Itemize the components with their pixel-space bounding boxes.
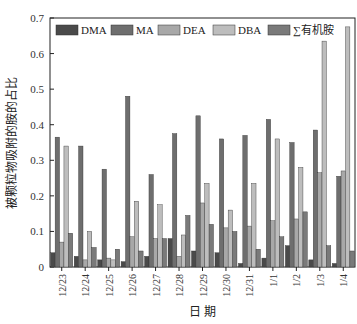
- bar-MA: [196, 116, 200, 267]
- y-tick-label: 0.3: [30, 154, 44, 166]
- x-tick-label: 12/27: [151, 274, 162, 297]
- bar-DMA: [192, 251, 196, 267]
- bar-∑有机胺: [233, 231, 237, 267]
- bar-DMA: [145, 256, 149, 267]
- bar-∑有机胺: [279, 237, 283, 267]
- bar-∑有机胺: [326, 246, 330, 267]
- bar-∑有机胺: [162, 239, 166, 267]
- bar-MA: [313, 130, 317, 267]
- bar-DMA: [121, 262, 125, 267]
- bar-MA: [337, 176, 341, 267]
- y-axis-title: 被颗粒物吸附的胺的占比: [4, 77, 19, 209]
- legend-swatch: [56, 25, 78, 35]
- bar-DEA: [60, 242, 64, 267]
- bar-DMA: [215, 253, 219, 267]
- bar-DEA: [294, 219, 298, 267]
- bar-MA: [219, 139, 223, 267]
- x-tick-label: 12/28: [174, 274, 185, 297]
- x-axis-title: 日 期: [189, 305, 216, 319]
- bar-DMA: [168, 239, 172, 267]
- bar-∑有机胺: [350, 251, 354, 267]
- bar-MA: [149, 175, 153, 267]
- bar-∑有机胺: [186, 215, 190, 267]
- y-tick-label: 0.1: [30, 225, 44, 237]
- bar-DEA: [247, 226, 251, 267]
- bar-∑有机胺: [139, 251, 143, 267]
- x-tick-label: 1/4: [338, 274, 349, 287]
- y-tick-label: 0.5: [30, 83, 44, 95]
- x-tick-label: 12/30: [221, 274, 232, 297]
- bar-DEA: [200, 203, 204, 267]
- bar-DEA: [153, 239, 157, 267]
- bar-∑有机胺: [256, 249, 260, 267]
- bar-DEA: [83, 260, 87, 267]
- bar-DBA: [252, 183, 256, 267]
- y-tick-label: 0.6: [30, 48, 44, 60]
- bar-DEA: [318, 173, 322, 267]
- bar-MA: [172, 134, 176, 267]
- bar-DEA: [271, 221, 275, 267]
- bar-DBA: [158, 205, 162, 267]
- x-tick-label: 1/3: [315, 274, 326, 287]
- bar-DMA: [74, 256, 78, 267]
- bar-∑有机胺: [115, 249, 119, 267]
- bar-DBA: [322, 41, 326, 267]
- x-tick-label: 12/24: [80, 274, 91, 297]
- bar-MA: [266, 119, 270, 267]
- bar-MA: [55, 137, 59, 267]
- y-tick-label: 0.2: [30, 190, 44, 202]
- y-tick-label: 0: [39, 261, 45, 273]
- legend-label: ∑有机胺: [293, 23, 334, 37]
- bar-MA: [79, 146, 83, 267]
- bar-DEA: [130, 237, 134, 267]
- bar-∑有机胺: [68, 233, 72, 267]
- x-tick-label: 12/29: [198, 274, 209, 297]
- bar-DEA: [341, 171, 345, 267]
- bar-DEA: [177, 256, 181, 267]
- bar-MA: [102, 169, 106, 267]
- bar-DMA: [51, 253, 55, 267]
- bar-DBA: [181, 235, 185, 267]
- bar-DBA: [64, 146, 68, 267]
- y-tick-label: 0.7: [30, 12, 44, 24]
- x-tick-label: 12/25: [104, 274, 115, 297]
- bar-∑有机胺: [209, 224, 213, 267]
- bar-DMA: [309, 260, 313, 267]
- legend-swatch: [268, 25, 290, 35]
- legend-label: MA: [136, 24, 154, 36]
- bar-DEA: [106, 258, 110, 267]
- bar-DBA: [275, 139, 279, 267]
- legend-label: DEA: [183, 24, 206, 36]
- bar-∑有机胺: [303, 212, 307, 267]
- bar-DMA: [285, 246, 289, 267]
- x-tick-label: 1/1: [268, 274, 279, 287]
- x-tick-label: 12/31: [244, 274, 255, 297]
- bar-DBA: [299, 167, 303, 267]
- bar-∑有机胺: [92, 247, 96, 267]
- bar-MA: [290, 143, 294, 268]
- bar-DMA: [238, 263, 242, 267]
- bar-DMA: [262, 258, 266, 267]
- legend-label: DBA: [238, 24, 261, 36]
- x-tick-label: 1/2: [291, 274, 302, 287]
- legend-swatch: [158, 25, 180, 35]
- bar-DMA: [98, 260, 102, 267]
- bar-DBA: [111, 260, 115, 267]
- bar-DMA: [332, 263, 336, 267]
- bar-DBA: [205, 183, 209, 267]
- bar-DEA: [224, 228, 228, 267]
- y-tick-label: 0.4: [30, 119, 44, 131]
- legend-label: DMA: [81, 24, 107, 36]
- bar-MA: [243, 135, 247, 267]
- x-tick-label: 12/23: [57, 274, 68, 297]
- grouped-bar-chart: 00.10.20.30.40.50.60.712/2312/2412/2512/…: [0, 0, 357, 324]
- bar-DBA: [134, 201, 138, 267]
- bar-DBA: [228, 210, 232, 267]
- bar-DBA: [87, 231, 91, 267]
- bar-DBA: [345, 27, 349, 267]
- legend-swatch: [213, 25, 235, 35]
- bar-MA: [126, 96, 130, 267]
- x-tick-label: 12/26: [127, 274, 138, 297]
- legend-swatch: [111, 25, 133, 35]
